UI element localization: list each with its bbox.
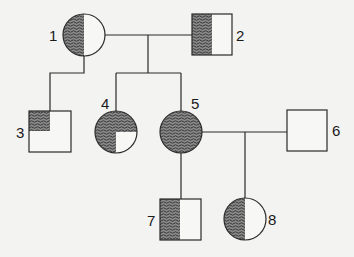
label-5: 5 <box>191 95 199 112</box>
individual-2: 2 <box>192 14 244 55</box>
label-7: 7 <box>147 212 155 229</box>
individual-8: 8 <box>224 198 276 240</box>
label-6: 6 <box>332 122 340 139</box>
pedigree-diagram: 1 2 3 4 5 6 7 <box>0 0 354 257</box>
label-1: 1 <box>49 27 57 44</box>
label-2: 2 <box>236 27 244 44</box>
individual-7: 7 <box>147 199 201 240</box>
label-8: 8 <box>268 211 276 228</box>
individual-1: 1 <box>49 14 105 56</box>
individual-3: 3 <box>16 111 71 152</box>
individual-6: 6 <box>287 110 340 151</box>
label-3: 3 <box>16 124 24 141</box>
label-4: 4 <box>101 95 109 112</box>
child-line-3 <box>50 56 84 111</box>
